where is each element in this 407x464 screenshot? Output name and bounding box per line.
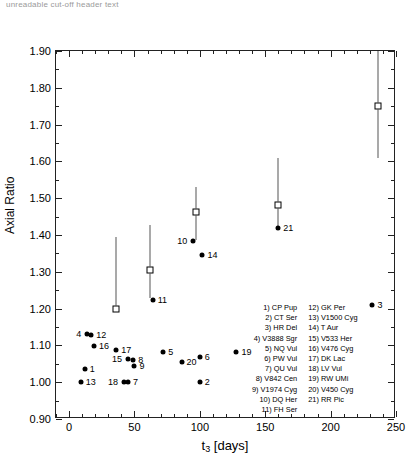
data-point-label: 5	[168, 347, 173, 357]
x-axis-minor-tick	[383, 51, 384, 54]
y-axis-tick-label: 1.20	[30, 303, 51, 315]
y-axis-minor-tick	[56, 253, 59, 254]
x-axis-major-tick	[134, 51, 135, 57]
legend-item: 17) DK Lac	[308, 354, 357, 364]
x-axis-major-tick	[396, 411, 397, 417]
data-point-label: 10	[177, 236, 187, 246]
y-axis-tick-label: 1.30	[30, 266, 51, 278]
x-axis-minor-tick	[174, 414, 175, 417]
y-axis-major-tick	[388, 125, 394, 126]
x-axis-minor-tick	[344, 51, 345, 54]
legend-item: 19) RW UMi	[308, 374, 357, 384]
data-point	[82, 367, 87, 372]
x-axis-minor-tick	[82, 51, 83, 54]
legend-item: 12) GK Per	[308, 303, 357, 313]
x-axis-minor-tick	[226, 51, 227, 54]
y-axis-major-tick	[56, 161, 62, 162]
legend-item: 8) V842 Cen	[252, 374, 297, 384]
y-axis-minor-tick	[56, 327, 59, 328]
y-axis-minor-tick	[56, 401, 59, 402]
data-point-label: 17	[121, 345, 131, 355]
legend-item: 15) V533 Her	[308, 334, 357, 344]
legend-item: 14) T Aur	[308, 323, 357, 333]
data-point	[91, 344, 96, 349]
x-axis-tick-label: 150	[256, 421, 274, 433]
error-bar	[116, 237, 117, 308]
y-axis-minor-tick	[56, 290, 59, 291]
error-bar	[150, 225, 151, 298]
data-point	[131, 358, 136, 363]
legend-item: 1) CP Pup	[252, 303, 297, 313]
y-axis-title: Axial Ratio	[3, 177, 17, 234]
y-axis-minor-tick	[56, 180, 59, 181]
x-axis-minor-tick	[108, 51, 109, 54]
data-point	[370, 302, 375, 307]
legend-item: 13) V1500 Cyg	[308, 313, 357, 323]
y-axis-major-tick	[56, 419, 62, 420]
x-axis-minor-tick	[108, 414, 109, 417]
y-axis-minor-tick	[391, 143, 394, 144]
data-point	[200, 252, 205, 257]
x-axis-minor-tick	[121, 414, 122, 417]
x-axis-minor-tick	[357, 51, 358, 54]
y-axis-tick-label: 1.10	[30, 339, 51, 351]
y-axis-minor-tick	[391, 106, 394, 107]
x-axis-minor-tick	[318, 51, 319, 54]
x-axis-minor-tick	[161, 51, 162, 54]
y-axis-minor-tick	[56, 143, 59, 144]
mean-marker	[113, 305, 120, 312]
y-axis-tick-label: 1.60	[30, 155, 51, 167]
data-point	[234, 349, 239, 354]
y-axis-major-tick	[388, 51, 394, 52]
x-axis-minor-tick	[213, 414, 214, 417]
legend-item: 9) V1974 Cyg	[252, 385, 297, 395]
legend-item: 6) PW Vul	[252, 354, 297, 364]
x-axis-minor-tick	[95, 414, 96, 417]
data-point-label: 16	[99, 341, 109, 351]
scatter-chart-figure: Axial Ratio t3 [days] 0.901.001.101.201.…	[0, 0, 407, 464]
x-axis-minor-tick	[148, 414, 149, 417]
legend-item: 21) RR Pic	[308, 395, 357, 405]
x-axis-minor-tick	[56, 414, 57, 417]
x-axis-minor-tick	[239, 51, 240, 54]
y-axis-major-tick	[388, 419, 394, 420]
y-axis-major-tick	[388, 345, 394, 346]
y-axis-major-tick	[56, 235, 62, 236]
data-point	[161, 350, 166, 355]
x-axis-major-tick	[134, 411, 135, 417]
data-point-label: 21	[283, 223, 293, 233]
y-axis-minor-tick	[391, 69, 394, 70]
y-axis-major-tick	[388, 235, 394, 236]
data-point	[276, 226, 281, 231]
y-axis-major-tick	[388, 88, 394, 89]
data-point-label: 12	[96, 330, 106, 340]
data-point-label: 6	[205, 352, 210, 362]
y-axis-major-tick	[56, 272, 62, 273]
x-axis-minor-tick	[148, 51, 149, 54]
data-point-label: 20	[187, 357, 197, 367]
x-axis-minor-tick	[161, 414, 162, 417]
data-point	[122, 380, 127, 385]
data-point-label: 3	[377, 300, 382, 310]
data-point-label: 13	[86, 377, 96, 387]
legend-item: 2) CT Ser	[252, 313, 297, 323]
y-axis-tick-label: 1.00	[30, 376, 51, 388]
y-axis-tick-label: 1.40	[30, 229, 51, 241]
data-point	[191, 239, 196, 244]
x-axis-title: t3 [days]	[202, 438, 249, 454]
x-axis-tick-label: 0	[66, 421, 72, 433]
data-point	[197, 355, 202, 360]
y-axis-minor-tick	[391, 217, 394, 218]
data-point-label: 19	[241, 347, 251, 357]
mean-marker	[147, 266, 154, 273]
error-bar	[278, 158, 279, 226]
x-axis-tick-label: 50	[128, 421, 140, 433]
y-axis-major-tick	[56, 382, 62, 383]
legend-item: 20) V450 Cyg	[308, 385, 357, 395]
y-axis-major-tick	[56, 198, 62, 199]
y-axis-tick-label: 1.50	[30, 192, 51, 204]
mean-marker	[275, 201, 282, 208]
x-axis-major-tick	[200, 51, 201, 57]
x-axis-minor-tick	[370, 414, 371, 417]
x-axis-minor-tick	[121, 51, 122, 54]
